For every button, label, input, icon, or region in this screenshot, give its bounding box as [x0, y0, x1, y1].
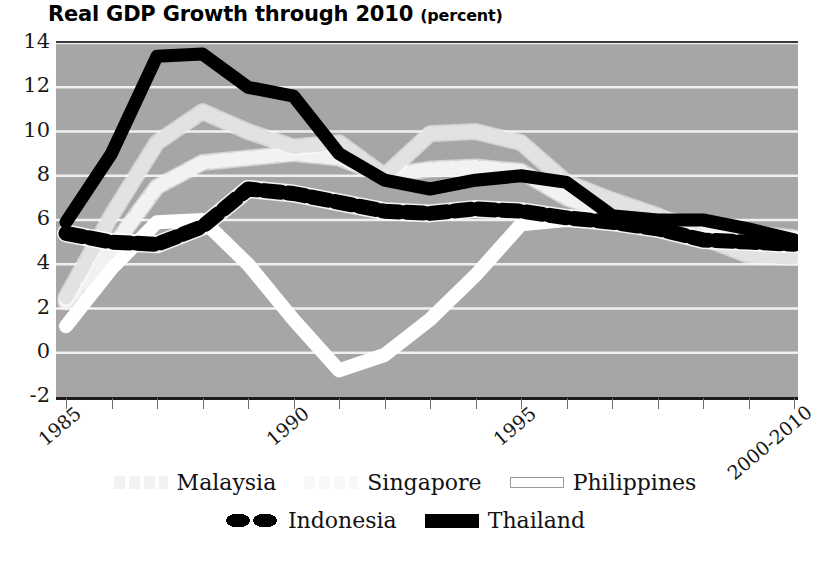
chart-title-main: Real GDP Growth through 2010	[48, 2, 413, 26]
legend-label: Malaysia	[177, 470, 277, 495]
black-solid-line-swatch	[425, 514, 479, 528]
y-tick-label: 12	[6, 73, 50, 97]
y-tick-label: 0	[6, 339, 50, 363]
legend-row-1: MalaysiaSingaporePhilippines	[0, 470, 810, 495]
x-tick-label: 1990	[262, 402, 313, 450]
legend-entry-indonesia[interactable]: Indonesia	[225, 508, 397, 533]
y-tick-label: 6	[6, 206, 50, 230]
legend-label: Thailand	[488, 508, 585, 533]
chart-title-unit: (percent)	[420, 6, 502, 25]
y-tick-label: 2	[6, 295, 50, 319]
y-tick-label: 14	[6, 29, 50, 53]
white-outlined-line-swatch	[510, 477, 564, 488]
x-axis-tick-labels: 1985199019952000-2010	[0, 398, 810, 478]
legend-entry-philippines[interactable]: Philippines	[510, 470, 697, 495]
x-tick-label: 1985	[34, 402, 85, 450]
plot-series-svg	[56, 43, 798, 397]
legend-entry-thailand[interactable]: Thailand	[425, 508, 585, 533]
chart-legend: MalaysiaSingaporePhilippines IndonesiaTh…	[0, 470, 810, 554]
legend-entry-malaysia[interactable]: Malaysia	[114, 470, 277, 495]
dashed-light-gray-line-swatch	[114, 476, 168, 489]
legend-label: Philippines	[573, 470, 697, 495]
legend-label: Indonesia	[288, 508, 397, 533]
y-tick-label: 10	[6, 118, 50, 142]
legend-entry-singapore[interactable]: Singapore	[304, 470, 481, 495]
y-tick-label: 8	[6, 162, 50, 186]
chart-title: Real GDP Growth through 2010 (percent)	[48, 2, 503, 26]
dashed-white-line-swatch	[304, 476, 358, 489]
legend-row-2: IndonesiaThailand	[0, 508, 810, 533]
black-dotted-line-swatch	[225, 514, 279, 527]
plot-area	[56, 41, 798, 400]
x-tick-label: 1995	[489, 402, 540, 450]
legend-label: Singapore	[367, 470, 481, 495]
y-tick-label: 4	[6, 250, 50, 274]
